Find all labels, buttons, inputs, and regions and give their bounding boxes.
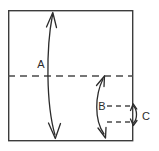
dimension-a-curve — [48, 15, 55, 135]
dimension-b-label: B — [98, 100, 105, 112]
dimension-a-label: A — [37, 58, 45, 70]
dimension-c-label: C — [142, 110, 150, 122]
dimension-b-arrowhead-bottom-icon — [98, 128, 106, 139]
dimension-diagram: A B C — [0, 0, 159, 151]
diagram-canvas: A B C — [0, 0, 159, 151]
